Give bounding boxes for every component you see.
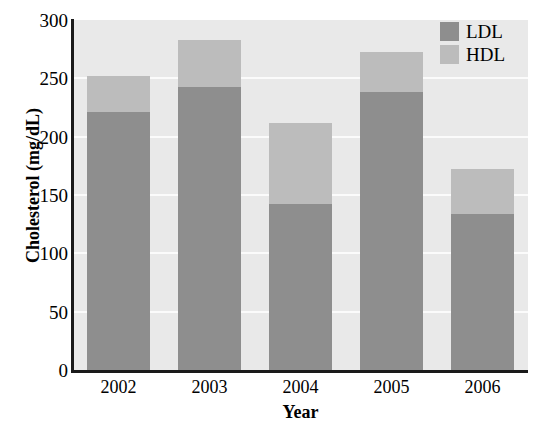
y-tick-label: 0: [6, 361, 68, 380]
bar-segment-ldl: [269, 204, 332, 370]
x-axis-line: [71, 370, 528, 373]
bar-group: [269, 20, 332, 370]
y-tick-label: 200: [6, 128, 68, 147]
x-tick-label: 2003: [165, 377, 255, 398]
bar-group: [360, 20, 423, 370]
bar-segment-ldl: [360, 92, 423, 370]
bar-group: [87, 20, 150, 370]
y-tick-label: 150: [6, 186, 68, 205]
bar-group: [178, 20, 241, 370]
legend: LDLHDL: [440, 20, 532, 66]
x-axis-title: Year: [73, 402, 528, 423]
bar-group: [451, 20, 514, 370]
x-tick-label: 2005: [347, 377, 437, 398]
bar-segment-hdl: [178, 40, 241, 87]
bar-segment-ldl: [451, 214, 514, 370]
bar-segment-ldl: [178, 87, 241, 371]
x-tick-label: 2004: [256, 377, 346, 398]
legend-label: HDL: [466, 45, 505, 64]
bar-segment-hdl: [451, 169, 514, 213]
legend-swatch-icon: [440, 22, 459, 41]
x-tick-label: 2002: [74, 377, 164, 398]
y-axis-tick-labels: 050100150200250300: [0, 0, 68, 430]
legend-label: LDL: [466, 22, 503, 41]
legend-item-ldl: LDL: [440, 20, 532, 43]
y-tick-label: 100: [6, 244, 68, 263]
bar-segment-hdl: [360, 52, 423, 93]
plot-area: [73, 20, 528, 370]
y-tick-label: 250: [6, 69, 68, 88]
y-tick-label: 300: [6, 11, 68, 30]
y-tick-label: 50: [6, 303, 68, 322]
bar-segment-ldl: [87, 112, 150, 370]
legend-swatch-icon: [440, 45, 459, 64]
y-axis-line: [71, 19, 74, 372]
bar-segment-hdl: [269, 123, 332, 205]
legend-item-hdl: HDL: [440, 43, 532, 66]
bar-segment-hdl: [87, 76, 150, 112]
cholesterol-stacked-bar-chart: Cholesterol (mg/dL) 050100150200250300 2…: [0, 0, 538, 430]
x-tick-label: 2006: [438, 377, 528, 398]
